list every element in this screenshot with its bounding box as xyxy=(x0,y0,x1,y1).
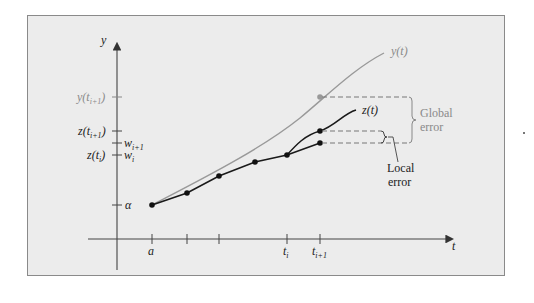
y-curve-label: y(t) xyxy=(390,44,408,58)
global-error-label-1: Global xyxy=(420,106,453,120)
tick-ti-label: ti xyxy=(283,244,289,260)
alpha-label: α xyxy=(125,198,132,212)
global-error-label-2: error xyxy=(420,120,443,134)
tick-ti1-label: ti+1 xyxy=(312,244,327,260)
local-error-label-1: Local xyxy=(387,161,415,175)
local-error-leader xyxy=(388,137,398,162)
exact-solution-curve xyxy=(152,53,384,205)
y-ti1-label: y(ti+1) xyxy=(76,90,105,106)
y-axis-label: y xyxy=(100,33,107,47)
z-curve-label: z(t) xyxy=(361,103,378,117)
global-error-brace xyxy=(409,97,416,143)
z-ti1-label: z(ti+1) xyxy=(77,124,106,140)
tick-a-label: a xyxy=(148,244,154,258)
t-axis-label: t xyxy=(452,239,456,253)
w-i1-label: wi+1 xyxy=(124,136,144,152)
local-error-label-2: error xyxy=(388,175,411,189)
y-ti1-point xyxy=(317,94,323,100)
local-error-brace xyxy=(381,131,387,143)
euler-error-diagram: y t a ti ti+1 α z(ti) wi wi+1 z(ti+1) y(… xyxy=(0,0,534,303)
z-ti-label: z(ti) xyxy=(86,148,105,164)
euler-points xyxy=(149,128,323,208)
euler-polyline xyxy=(152,143,320,205)
